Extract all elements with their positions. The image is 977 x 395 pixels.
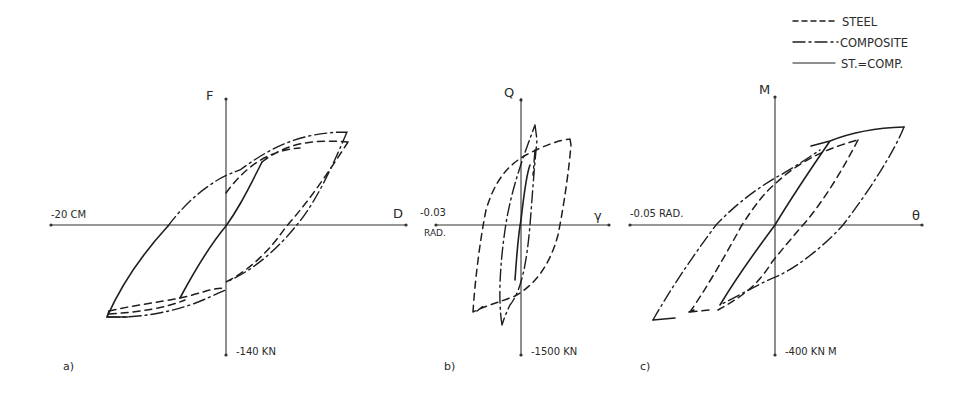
y-min-label: -140 KN — [236, 346, 276, 357]
legend-composite-label: COMPOSITE — [840, 36, 908, 50]
y-axis-label: F — [206, 88, 213, 103]
y-min-label: -1500 KN — [531, 346, 577, 357]
x-axis-label: γ — [594, 208, 602, 223]
legend-steel-label: STEEL — [842, 15, 878, 29]
y-min-label: -400 KN M — [785, 346, 837, 357]
y-axis-label: M — [759, 82, 770, 97]
series-stcomp — [107, 162, 262, 317]
x-min-label: -0.05 RAD. — [630, 208, 683, 219]
y-axis-label: Q — [504, 85, 514, 100]
panel-b: Q γ -0.03 RAD. -1500 KN b) — [420, 85, 611, 373]
panel-a: F D -20 CM -140 KN a) — [49, 88, 407, 373]
series-stcomp — [653, 127, 904, 320]
panel-label: a) — [63, 360, 74, 373]
x-unit-label: RAD. — [424, 228, 446, 238]
series-composite — [653, 127, 904, 320]
series-stcomp — [515, 165, 530, 280]
x-axis-label: D — [393, 206, 403, 221]
x-min-label: -20 CM — [51, 209, 86, 220]
legend: STEEL COMPOSITE ST.=COMP. — [793, 15, 908, 71]
series-steel — [109, 141, 348, 314]
legend-stcomp-label: ST.=COMP. — [841, 57, 903, 71]
hysteresis-figure: STEEL COMPOSITE ST.=COMP. F D -20 CM -14… — [0, 0, 977, 395]
x-min-label: -0.03 — [420, 207, 446, 218]
x-axis-label: θ — [912, 208, 920, 223]
panel-label: b) — [444, 360, 455, 373]
panel-c: M θ -0.05 RAD. -400 KN M c) — [628, 82, 923, 373]
panel-label: c) — [640, 360, 650, 373]
